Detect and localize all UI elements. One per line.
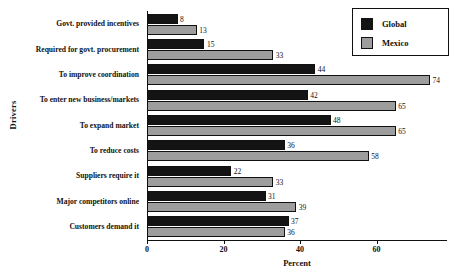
x-tick-label: 40: [296, 245, 304, 254]
bar-value-label: 74: [433, 76, 441, 85]
bar-value-label: 13: [199, 25, 207, 34]
bar-value-label: 36: [287, 141, 295, 150]
x-tick-mark: [224, 240, 225, 244]
bar-rect: [147, 166, 231, 176]
legend-swatch: [361, 18, 373, 30]
x-tick-label: 20: [220, 245, 228, 254]
bar-mexico: 33: [147, 177, 273, 187]
bar-value-label: 39: [299, 202, 307, 211]
legend-item: Global: [361, 14, 448, 33]
bar-mexico: 33: [147, 50, 273, 60]
bar-global: 8: [147, 14, 178, 24]
category-label: To enter new business/markets: [0, 88, 143, 113]
legend-label: Mexico: [382, 38, 408, 48]
bar-global: 48: [147, 115, 331, 125]
category-label: Major competitors online: [0, 189, 143, 214]
bar-global: 44: [147, 64, 315, 74]
bar-global: 42: [147, 90, 308, 100]
category-axis-labels: Govt. provided incentivesRequired for go…: [0, 12, 143, 240]
bar-value-label: 33: [276, 177, 284, 186]
bar-rect: [147, 140, 285, 150]
bar-group: 3736: [147, 215, 447, 240]
category-label: Customers demand it: [0, 215, 143, 240]
x-axis-line: [147, 240, 447, 241]
bar-rect: [147, 216, 289, 226]
bar-rect: [147, 115, 331, 125]
bar-value-label: 15: [207, 39, 215, 48]
x-tick-mark: [147, 240, 148, 244]
bar-group: 3658: [147, 139, 447, 164]
category-label: Required for govt. procurement: [0, 37, 143, 62]
bar-rect: [147, 64, 315, 74]
category-label: To reduce costs: [0, 139, 143, 164]
bar-value-label: 36: [287, 228, 295, 237]
bar-value-label: 42: [310, 90, 318, 99]
bar-mexico: 65: [147, 101, 396, 111]
category-label: Govt. provided incentives: [0, 12, 143, 37]
bar-value-label: 58: [371, 152, 379, 161]
bar-group: 3139: [147, 189, 447, 214]
bar-rect: [147, 39, 204, 49]
bar-group: 2233: [147, 164, 447, 189]
chart-legend: GlobalMexico: [352, 8, 449, 56]
bar-value-label: 31: [268, 191, 276, 200]
bar-mexico: 74: [147, 75, 430, 85]
bar-global: 22: [147, 166, 231, 176]
x-tick-label: 60: [373, 245, 381, 254]
category-label: To expand market: [0, 113, 143, 138]
bar-mexico: 36: [147, 227, 285, 237]
bar-group: 4265: [147, 88, 447, 113]
category-label: To improve coordination: [0, 63, 143, 88]
bar-rect: [147, 202, 296, 212]
category-label: Suppliers require it: [0, 164, 143, 189]
x-tick-mark: [300, 240, 301, 244]
bar-value-label: 65: [398, 101, 406, 110]
bar-mexico: 65: [147, 126, 396, 136]
bar-rect: [147, 151, 369, 161]
bar-global: 36: [147, 140, 285, 150]
x-axis-title: Percent: [147, 258, 447, 268]
x-tick-mark: [377, 240, 378, 244]
x-tick-label: 0: [145, 245, 149, 254]
legend-swatch: [361, 37, 373, 49]
bar-rect: [147, 14, 178, 24]
bar-mexico: 39: [147, 202, 296, 212]
bar-group: 4474: [147, 63, 447, 88]
bar-global: 37: [147, 216, 289, 226]
bar-value-label: 37: [291, 217, 299, 226]
bar-value-label: 44: [318, 65, 326, 74]
bar-rect: [147, 50, 273, 60]
bar-global: 31: [147, 191, 266, 201]
bar-mexico: 58: [147, 151, 369, 161]
bar-value-label: 8: [180, 14, 184, 23]
bar-chart: Drivers Govt. provided incentivesRequire…: [0, 0, 454, 279]
bar-rect: [147, 90, 308, 100]
bar-value-label: 22: [234, 166, 242, 175]
legend-label: Global: [382, 19, 407, 29]
bar-rect: [147, 126, 396, 136]
bar-global: 15: [147, 39, 204, 49]
bar-rect: [147, 101, 396, 111]
bar-group: 4865: [147, 113, 447, 138]
bar-rect: [147, 177, 273, 187]
bar-rect: [147, 75, 430, 85]
bar-mexico: 13: [147, 25, 197, 35]
bar-rect: [147, 227, 285, 237]
bar-rect: [147, 25, 197, 35]
legend-item: Mexico: [361, 33, 448, 52]
bar-value-label: 48: [333, 115, 341, 124]
bar-rect: [147, 191, 266, 201]
bar-value-label: 65: [398, 126, 406, 135]
bar-value-label: 33: [276, 50, 284, 59]
